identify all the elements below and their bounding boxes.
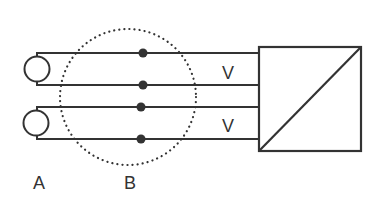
source-top-icon (25, 57, 50, 82)
converter-box (259, 47, 361, 151)
wire-1 (37, 53, 259, 58)
label-v-top: V (222, 63, 234, 83)
source-bottom-icon (24, 111, 49, 136)
junction-dot (139, 81, 148, 90)
label-a: A (33, 173, 45, 193)
junction-dot (137, 135, 146, 144)
junction-dot (139, 49, 148, 58)
wire-3 (37, 107, 259, 112)
circuit-diagram: V V A B (0, 0, 381, 201)
label-v-bottom: V (222, 116, 234, 136)
label-b: B (124, 173, 136, 193)
region-b-dotted-circle (60, 29, 196, 165)
junction-dot (137, 103, 146, 112)
